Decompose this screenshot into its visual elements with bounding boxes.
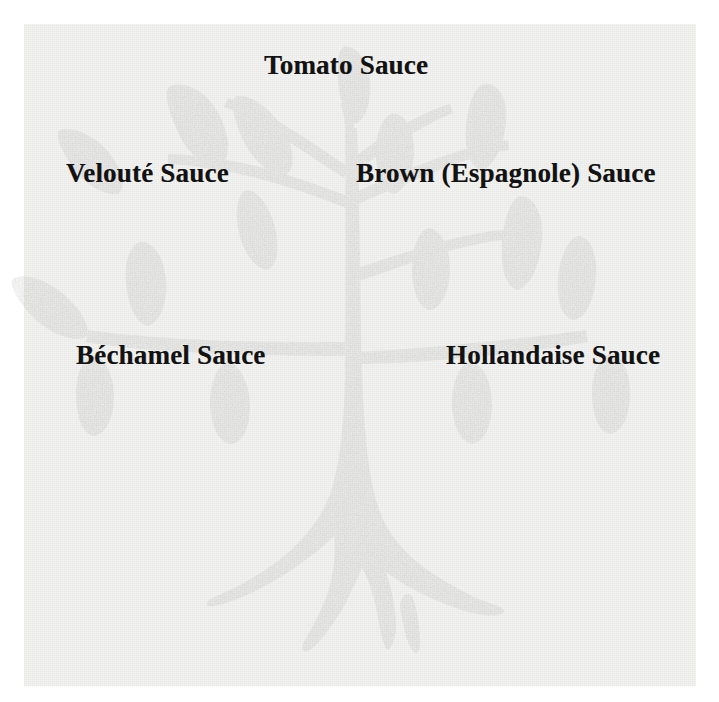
leaf-lower-right-inner: [452, 362, 492, 444]
leaf-mid-right-inner: [412, 228, 450, 310]
leaf-mid-right-tip: [558, 236, 597, 320]
leaf-lower-left-below-inner: [210, 362, 250, 444]
label-veloute-sauce: Velouté Sauce: [66, 160, 229, 187]
label-hollandaise-sauce: Hollandaise Sauce: [446, 342, 660, 369]
diagram-canvas: Tomato Sauce Velouté Sauce Brown (Espagn…: [0, 0, 719, 702]
leaf-lower-left-upper: [126, 242, 167, 326]
label-tomato-sauce: Tomato Sauce: [264, 52, 428, 79]
leaf-mid-right-outer: [502, 196, 543, 290]
leaf-lower-left-tip: [12, 276, 88, 339]
label-brown-espagnole-sauce: Brown (Espagnole) Sauce: [356, 160, 656, 187]
label-bechamel-sauce: Béchamel Sauce: [76, 342, 266, 369]
leaf-upper-left-lower: [237, 190, 278, 270]
